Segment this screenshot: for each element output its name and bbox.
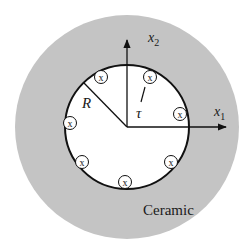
inclusion-marker: x [144,71,157,84]
ceramic-label: Ceramic [143,202,194,218]
inclusion-marker: x [119,176,132,189]
marker-x-label: x [68,118,73,129]
ceramic-hole-diagram: xxxxxxx R τ x2 x1 Ceramic [0,0,252,250]
marker-x-label: x [99,72,104,83]
radius-label: R [81,95,91,111]
marker-x-label: x [80,157,85,168]
inclusion-marker: x [95,71,108,84]
marker-x-label: x [148,72,153,83]
inclusion-marker: x [64,117,77,130]
tau-label: τ [136,105,142,121]
marker-x-label: x [169,157,174,168]
x1-sub: 1 [220,111,225,122]
marker-x-label: x [178,109,183,120]
x2-sub: 2 [154,37,159,48]
marker-x-label: x [123,177,128,188]
inclusion-marker: x [76,156,89,169]
inclusion-marker: x [174,108,187,121]
inclusion-marker: x [165,156,178,169]
